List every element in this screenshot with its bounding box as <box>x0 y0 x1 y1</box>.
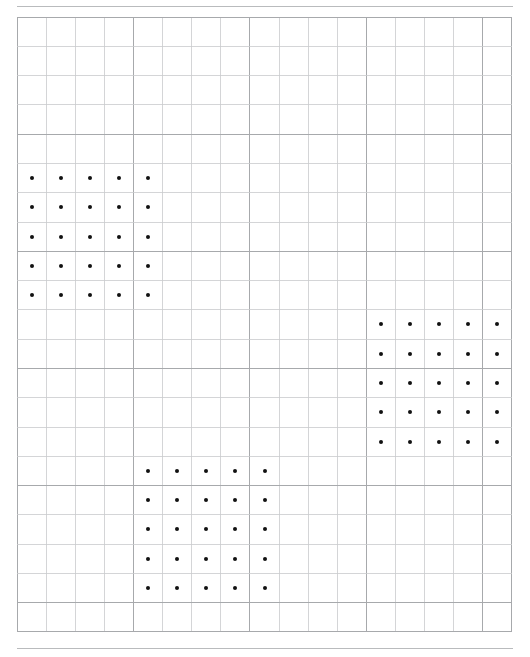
grid-dot <box>233 469 237 473</box>
grid-dot <box>233 498 237 502</box>
bottom-middle-block <box>17 17 512 632</box>
grid-dot <box>263 586 267 590</box>
grid-dot <box>233 527 237 531</box>
grid-dot <box>204 586 208 590</box>
grid-dot <box>146 469 150 473</box>
grid-dot <box>263 498 267 502</box>
grid-dot <box>233 586 237 590</box>
grid-dot <box>263 469 267 473</box>
grid-dot <box>146 498 150 502</box>
grid-dot <box>263 527 267 531</box>
bottom-divider-rule <box>17 648 513 649</box>
grid-dot <box>204 469 208 473</box>
grid-dot <box>175 469 179 473</box>
grid-dot <box>233 557 237 561</box>
grid-dot <box>175 498 179 502</box>
grid-dot <box>175 557 179 561</box>
grid-dot <box>204 557 208 561</box>
grid-dot <box>146 527 150 531</box>
grid-dot <box>146 586 150 590</box>
top-divider-rule <box>17 6 513 7</box>
page-canvas <box>0 0 530 657</box>
grid-dot <box>175 586 179 590</box>
grid-dot <box>204 527 208 531</box>
grid-dot <box>204 498 208 502</box>
dot-grid <box>17 17 512 632</box>
grid-dot <box>263 557 267 561</box>
grid-dot <box>146 557 150 561</box>
grid-dot <box>175 527 179 531</box>
dot-layer <box>17 17 512 632</box>
